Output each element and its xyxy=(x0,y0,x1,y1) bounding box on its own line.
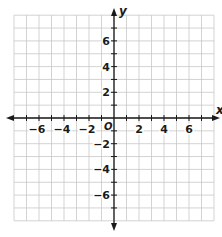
x-tick-label: −6 xyxy=(29,123,46,136)
y-tick-label: 2 xyxy=(102,86,110,99)
x-tick-label: −4 xyxy=(54,123,71,136)
x-tick-label: −2 xyxy=(79,123,96,136)
x-tick-label: 4 xyxy=(160,123,168,136)
y-tick-label: 4 xyxy=(102,61,110,74)
x-tick-label: 6 xyxy=(185,123,193,136)
y-axis-down-arrow-icon xyxy=(111,223,117,231)
x-axis-label: x xyxy=(215,103,222,117)
origin-label: O xyxy=(104,121,113,132)
y-axis-up-arrow-icon xyxy=(111,8,117,16)
x-tick-label: 2 xyxy=(135,123,143,136)
y-tick-label: −4 xyxy=(93,163,110,176)
y-tick-label: −2 xyxy=(93,138,110,151)
axes xyxy=(6,8,220,231)
x-axis-left-arrow-icon xyxy=(6,115,14,121)
coordinate-plane: −6−4−2246642−2−4−6 y x O xyxy=(0,0,222,237)
y-tick-label: −6 xyxy=(93,189,110,202)
y-axis-label: y xyxy=(119,4,128,18)
y-tick-label: 6 xyxy=(102,35,110,48)
